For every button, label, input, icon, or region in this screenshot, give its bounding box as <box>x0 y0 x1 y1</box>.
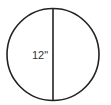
diameter-label: 12" <box>32 49 48 61</box>
circle-diagram: 12" <box>0 0 111 105</box>
